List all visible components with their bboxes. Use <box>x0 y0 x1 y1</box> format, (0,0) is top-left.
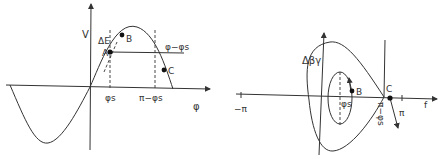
diagram-canvas: V ΔE A B C φ−φs φs π−φs φ Δβγ −π φs B C … <box>0 0 440 159</box>
point-b-label: B <box>126 34 132 44</box>
point-b-label: B <box>356 87 362 97</box>
pi-minus-phis-label: π−φs <box>376 102 386 126</box>
voltage-sine-curve <box>10 26 173 143</box>
neg-pi-label: −π <box>234 104 248 114</box>
right-phase-space-plot: Δβγ −π φs B C π f π−φs <box>234 33 437 155</box>
point-c <box>387 95 392 100</box>
phi-minus-phis-label: φ−φs <box>165 42 189 52</box>
point-a <box>107 49 112 54</box>
phi-axis-label: φ <box>193 101 200 112</box>
phis-label: φs <box>105 93 116 103</box>
c-direction-arrow <box>390 98 398 128</box>
phi-axis <box>6 85 210 89</box>
phase-stability-diagram: V ΔE A B C φ−φs φs π−φs φ Δβγ −π φs B C … <box>0 0 440 159</box>
pi-minus-phis-label: π−φs <box>139 93 163 103</box>
phi-minus-phis-line <box>110 52 184 53</box>
pi-label: π <box>399 108 405 118</box>
point-b <box>350 89 355 94</box>
point-a-label: A <box>102 48 109 58</box>
point-c <box>162 68 167 73</box>
delta-e-label: ΔE <box>98 36 110 46</box>
point-c-label: C <box>168 66 174 76</box>
delta-beta-gamma-label: Δβγ <box>302 55 321 66</box>
f-axis-label: f <box>424 100 428 110</box>
phis-label: φs <box>341 99 352 109</box>
left-voltage-plot: V ΔE A B C φ−φs φs π−φs φ <box>6 4 210 150</box>
point-b <box>120 33 125 38</box>
f-axis <box>236 94 437 99</box>
point-c-label: C <box>386 84 392 94</box>
delta-beta-gamma-axis <box>319 33 324 155</box>
v-axis <box>90 4 91 150</box>
separatrix-vertical-line <box>384 40 385 97</box>
v-axis-label: V <box>82 29 89 40</box>
